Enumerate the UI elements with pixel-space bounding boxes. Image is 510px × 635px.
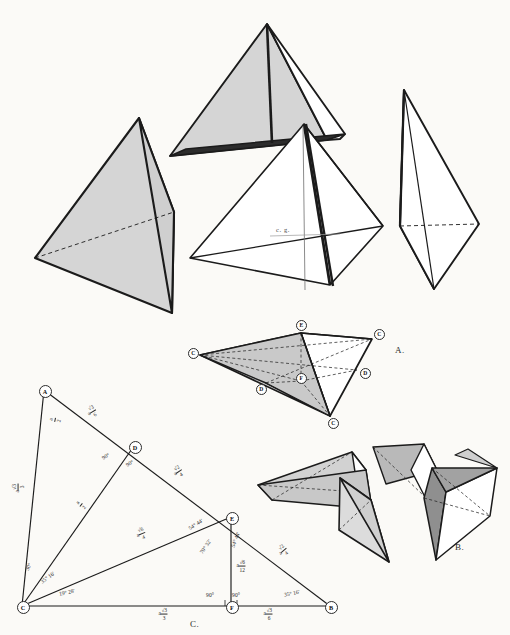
- vertex-node-d-1: D: [129, 441, 142, 454]
- vertex-node-b-3: B: [325, 601, 338, 614]
- vertex-node-e-0: E: [296, 320, 308, 332]
- vertex-node-c-4: C: [17, 601, 30, 614]
- vertex-node-a-0: A: [39, 385, 52, 398]
- vertex-node-f-5: F: [226, 601, 239, 614]
- vertex-node-c-2: C: [374, 329, 386, 341]
- vertex-node-f-6: F: [296, 373, 308, 385]
- vertex-node-c-1: C: [188, 348, 200, 360]
- vertex-node-e-2: E: [226, 512, 239, 525]
- vertex-node-d-4: D: [256, 384, 268, 396]
- geometry-plate: [0, 0, 510, 635]
- vertex-node-d-5: D: [360, 368, 372, 380]
- vertex-node-c-3: C: [328, 418, 340, 430]
